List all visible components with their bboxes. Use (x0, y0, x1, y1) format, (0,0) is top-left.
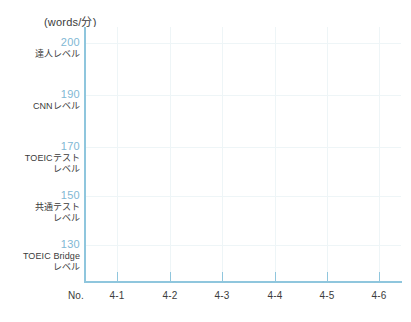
y-tick-170: 170 TOEICテスト レベル (2, 140, 84, 174)
y-tick-190: 190 CNNレベル (2, 88, 84, 112)
y-tick-value: 190 (2, 88, 84, 101)
x-tick-label-4-1: 4-1 (97, 290, 137, 301)
x-tick-mark-4-4 (275, 272, 276, 282)
gridline-horizontal (84, 43, 401, 44)
y-axis-labels: 200 達人レベル 190 CNNレベル 170 TOEICテスト レベル 15… (0, 0, 84, 322)
plot-area (84, 27, 401, 281)
x-axis-number-caption: No. (56, 290, 96, 301)
y-tick-150: 150 共通テスト レベル (2, 189, 84, 223)
x-tick-label-4-5: 4-5 (307, 290, 347, 301)
gridline-vertical (117, 27, 118, 281)
y-tick-value: 200 (2, 36, 84, 49)
gridline-vertical (327, 27, 328, 281)
x-tick-label-4-4: 4-4 (255, 290, 295, 301)
x-tick-mark-4-2 (170, 272, 171, 282)
y-tick-level-label: TOEIC Bridge レベル (2, 251, 84, 272)
x-tick-mark-4-5 (327, 272, 328, 282)
gridline-horizontal (84, 95, 401, 96)
y-tick-level-label: TOEICテスト レベル (2, 153, 84, 174)
y-axis-line (84, 27, 86, 282)
y-tick-value: 130 (2, 238, 84, 251)
y-tick-value: 150 (2, 189, 84, 202)
gridline-vertical (222, 27, 223, 281)
y-tick-level-label: 達人レベル (2, 49, 84, 60)
gridline-horizontal (84, 196, 401, 197)
gridline-vertical (170, 27, 171, 281)
x-axis-line (84, 281, 402, 283)
x-tick-label-4-2: 4-2 (150, 290, 190, 301)
x-tick-mark-4-1 (117, 272, 118, 282)
x-tick-label-4-3: 4-3 (202, 290, 242, 301)
x-tick-mark-4-6 (379, 272, 380, 282)
gridline-horizontal (84, 147, 401, 148)
gridline-vertical (275, 27, 276, 281)
y-tick-130: 130 TOEIC Bridge レベル (2, 238, 84, 272)
reading-speed-chart: (words/分) 200 達人レベル 190 CNNレベル 170 TOEIC… (0, 0, 411, 322)
x-tick-label-4-6: 4-6 (359, 290, 399, 301)
y-tick-level-label: 共通テスト レベル (2, 202, 84, 223)
y-tick-value: 170 (2, 140, 84, 153)
y-tick-level-label: CNNレベル (2, 101, 84, 112)
y-tick-200: 200 達人レベル (2, 36, 84, 60)
gridline-horizontal (84, 245, 401, 246)
gridline-vertical (379, 27, 380, 281)
x-tick-mark-4-3 (222, 272, 223, 282)
